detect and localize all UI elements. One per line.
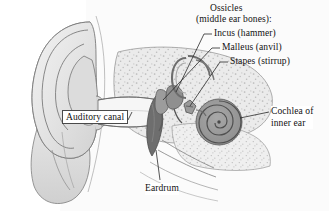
cochlea-spiral [196, 99, 242, 145]
label-stapes: Stapes (stirrup) [230, 56, 290, 68]
label-malleus: Malleus (anvil) [222, 42, 282, 54]
ear-anatomy-diagram: Ossicles (middle ear bones): Incus (hamm… [0, 0, 329, 211]
label-cochlea-line1: Cochlea of [271, 106, 313, 118]
label-eardrum: Eardrum [145, 183, 179, 195]
label-cochlea-line2: inner ear [271, 118, 313, 130]
label-incus: Incus (hammer) [214, 28, 276, 40]
label-auditory-canal: Auditory canal [62, 110, 128, 124]
label-cochlea-of-inner-ear: Cochlea of inner ear [271, 106, 313, 129]
label-middle-ear-bones: (middle ear bones): [196, 14, 272, 26]
label-ossicles: Ossicles [210, 3, 242, 15]
